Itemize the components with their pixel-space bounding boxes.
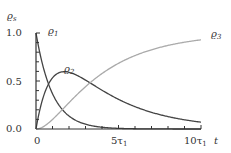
ytick-label-1: 1.0 (6, 27, 22, 38)
xtick-label-10: 10τ1 (184, 135, 207, 148)
ytick-label-05: 0.5 (6, 76, 22, 87)
series-line-2 (36, 72, 201, 129)
series-line-3 (36, 40, 201, 129)
y-axis-label: ϱs (7, 10, 17, 23)
rho2-label: ϱ2 (64, 63, 75, 76)
plot-area (36, 33, 201, 129)
rho1-label: ϱ1 (48, 25, 58, 38)
xtick-label-5: 5τ1 (111, 135, 127, 148)
ytick-label-0: 0.0 (6, 123, 22, 134)
rho3-label: ϱ3 (211, 28, 222, 41)
axis-ticks (36, 33, 201, 129)
x-axis-label: t (214, 135, 219, 146)
xtick-label-0: 0 (34, 135, 40, 146)
series-line-1 (36, 33, 201, 129)
chart: ϱs 1.0 0.5 0.0 0 5τ1 10τ1 t ϱ1 ϱ2 ϱ3 (0, 0, 231, 153)
